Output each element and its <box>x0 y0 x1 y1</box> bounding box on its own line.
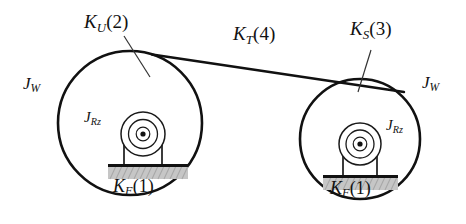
label-k-s-symbol: K <box>350 18 363 39</box>
label-j-rz-right: JRz <box>386 118 403 133</box>
label-k-u: KU(2) <box>84 12 128 31</box>
right-roller-axis-dot-icon <box>357 141 362 146</box>
label-k-s: KS(3) <box>350 19 392 38</box>
label-k-u-symbol: K <box>84 11 97 32</box>
label-k-f-left-subscript: F <box>125 184 133 198</box>
label-k-s-subscript: S <box>363 27 370 42</box>
label-k-t: KT(4) <box>233 24 275 43</box>
label-j-w-right-symbol: J <box>422 73 430 92</box>
label-k-f-right-subscript: F <box>342 186 350 200</box>
label-k-f-left-symbol: K <box>113 176 125 196</box>
label-j-w-right-subscript: W <box>430 81 440 94</box>
label-k-s-index: (3) <box>369 18 391 39</box>
label-j-rz-left: JRz <box>84 110 101 125</box>
label-k-f-left: KF(1) <box>113 177 154 195</box>
label-k-u-subscript: U <box>97 20 107 35</box>
label-j-w-right: JW <box>422 74 439 91</box>
label-k-u-index: (2) <box>106 11 128 32</box>
label-j-w-left: JW <box>23 75 40 92</box>
label-j-rz-left-subscript: Rz <box>91 116 102 127</box>
label-j-rz-right-symbol: J <box>386 117 393 133</box>
label-k-f-left-index: (1) <box>133 176 154 196</box>
label-k-f-right-index: (1) <box>350 178 371 198</box>
label-j-rz-left-symbol: J <box>84 109 91 125</box>
label-k-f-right-symbol: K <box>330 178 342 198</box>
left-roller-axis-dot-icon <box>140 131 145 136</box>
leader-line-k-u <box>124 36 150 77</box>
label-k-f-right: KF(1) <box>330 179 371 197</box>
left-wheel-assembly <box>58 51 202 195</box>
belt-line <box>152 55 404 93</box>
label-k-t-subscript: T <box>246 32 253 47</box>
label-k-t-index: (4) <box>253 23 275 44</box>
label-k-t-symbol: K <box>233 23 246 44</box>
mechanical-diagram: KU(2) KT(4) KS(3) JW JW JRz JRz KF(1) KF… <box>0 0 466 224</box>
label-j-rz-right-subscript: Rz <box>393 124 404 135</box>
label-j-w-left-subscript: W <box>31 82 41 95</box>
label-j-w-left-symbol: J <box>23 74 31 93</box>
